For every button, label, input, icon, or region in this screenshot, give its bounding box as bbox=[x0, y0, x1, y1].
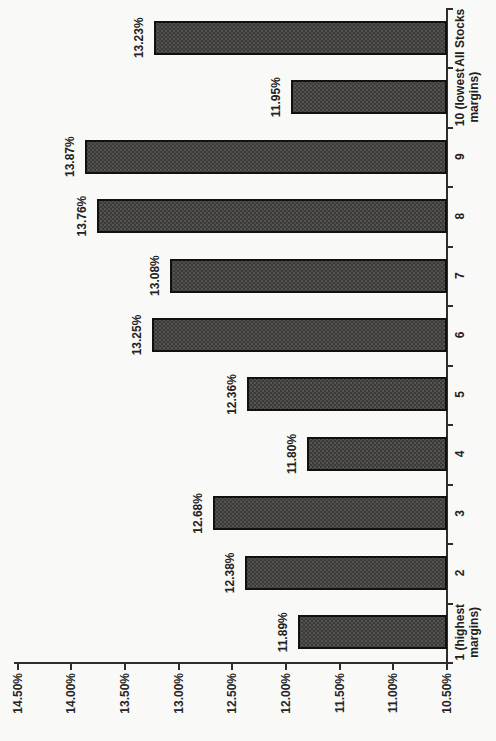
category-label: 7 bbox=[453, 242, 467, 309]
bar-value-label: 11.89% bbox=[276, 598, 290, 666]
y-tick-label: 11.50% bbox=[333, 673, 347, 741]
bar-1-highest-margins- bbox=[298, 615, 447, 649]
category-label-line: 2 bbox=[453, 539, 467, 606]
category-label-line: 5 bbox=[453, 361, 467, 428]
bar-value-label: 13.08% bbox=[148, 242, 162, 310]
y-tick-label: 11.00% bbox=[386, 673, 400, 741]
category-label: 9 bbox=[453, 123, 467, 190]
category-label: 5 bbox=[453, 361, 467, 428]
y-tick-mark bbox=[124, 664, 126, 670]
y-tick-mark bbox=[392, 664, 394, 670]
y-tick-mark bbox=[231, 664, 233, 670]
y-tick-label: 14.00% bbox=[64, 673, 78, 741]
bar-value-label: 13.76% bbox=[75, 182, 89, 250]
bar-2 bbox=[245, 556, 447, 590]
scanned-page: 10.50%11.00%11.50%12.00%12.50%13.00%13.5… bbox=[0, 0, 496, 741]
bar-value-label: 12.38% bbox=[223, 539, 237, 607]
category-label-line: 1 (highest bbox=[453, 599, 467, 666]
bar-8 bbox=[97, 199, 447, 233]
category-label-line: 3 bbox=[453, 480, 467, 547]
bar-5 bbox=[247, 377, 447, 411]
category-label: All Stocks bbox=[453, 4, 467, 71]
y-tick-mark bbox=[339, 664, 341, 670]
bar-9 bbox=[85, 140, 447, 174]
bar-3 bbox=[213, 496, 447, 530]
category-label-line: margins) bbox=[467, 63, 481, 130]
category-label-line: 10 (lowest bbox=[453, 63, 467, 130]
category-label-line: margins) bbox=[467, 599, 481, 666]
y-tick-label: 12.00% bbox=[279, 673, 293, 741]
category-label-line: All Stocks bbox=[453, 4, 467, 71]
y-tick-mark bbox=[17, 664, 19, 670]
bar-value-label: 13.25% bbox=[130, 301, 144, 369]
bar-chart: 10.50%11.00%11.50%12.00%12.50%13.00%13.5… bbox=[0, 0, 496, 741]
bar-value-label: 12.36% bbox=[225, 360, 239, 428]
category-label: 2 bbox=[453, 539, 467, 606]
category-label: 10 (lowestmargins) bbox=[453, 63, 481, 130]
y-tick-label: 13.50% bbox=[118, 673, 132, 741]
category-label-line: 7 bbox=[453, 242, 467, 309]
category-label: 4 bbox=[453, 420, 467, 487]
bar-value-label: 11.95% bbox=[269, 63, 283, 131]
category-label: 1 (highestmargins) bbox=[453, 599, 481, 666]
category-label-line: 8 bbox=[453, 182, 467, 249]
y-tick-label: 14.50% bbox=[11, 673, 25, 741]
bar-4 bbox=[307, 437, 447, 471]
category-label: 3 bbox=[453, 480, 467, 547]
bar-7 bbox=[170, 259, 447, 293]
y-tick-label: 10.50% bbox=[440, 673, 454, 741]
category-label-line: 9 bbox=[453, 123, 467, 190]
bar-value-label: 13.23% bbox=[132, 4, 146, 72]
bar-value-label: 13.87% bbox=[63, 123, 77, 191]
y-tick-mark bbox=[178, 664, 180, 670]
bar-6 bbox=[152, 318, 447, 352]
bar-all-stocks bbox=[154, 21, 447, 55]
category-label: 8 bbox=[453, 182, 467, 249]
category-label-line: 4 bbox=[453, 420, 467, 487]
y-tick-label: 13.00% bbox=[172, 673, 186, 741]
bar-10-lowest-margins- bbox=[291, 80, 447, 114]
bar-value-label: 11.80% bbox=[285, 420, 299, 488]
y-tick-mark bbox=[446, 664, 448, 670]
category-label: 6 bbox=[453, 301, 467, 368]
bar-value-label: 12.68% bbox=[191, 479, 205, 547]
y-tick-label: 12.50% bbox=[225, 673, 239, 741]
y-tick-mark bbox=[70, 664, 72, 670]
category-label-line: 6 bbox=[453, 301, 467, 368]
